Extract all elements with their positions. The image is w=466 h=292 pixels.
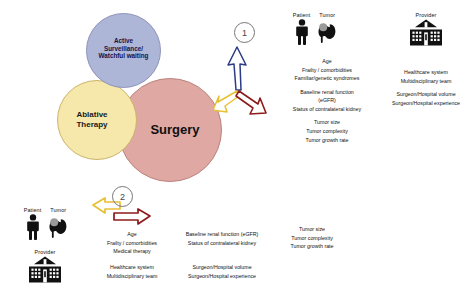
- arrow-down-left-yellow-icon: [214, 91, 239, 112]
- patient-header-bottom: Patient: [24, 207, 41, 213]
- circle-active-surveillance-label: ActiveSurveillance/Watchful waiting: [99, 37, 149, 65]
- group-one-patient-tumor-factors: Age Frailty / comorbidities Familiar/gen…: [282, 57, 372, 144]
- factor-line: Tumor complexity: [282, 127, 372, 136]
- factor-line: Status of contralateral kidney: [168, 239, 276, 248]
- factor-line: Healthcare system: [380, 68, 466, 77]
- provider-header-top: Provider: [398, 12, 454, 18]
- group-two-column-four: Healthcare system Multidisciplinary team: [84, 263, 180, 280]
- circle-ablative-therapy: AblativeTherapy: [57, 80, 137, 160]
- factor-line: Healthcare system: [84, 263, 180, 272]
- circle-surgery-label: Surgery: [140, 122, 199, 138]
- factor-line: Status of contralateral kidney: [282, 105, 372, 114]
- hospital-building-icon: [28, 256, 62, 283]
- factor-line: Baseline renal function: [282, 88, 372, 97]
- factor-line: Multidisciplinary team: [84, 272, 180, 281]
- group-one-provider-factors: Healthcare system Multidisciplinary team…: [380, 68, 466, 107]
- factor-line: Multidisciplinary team: [380, 77, 466, 86]
- arrow-right-red-icon: [114, 209, 150, 224]
- hospital-building-icon: [409, 19, 443, 46]
- arrow-down-right-red-icon: [236, 91, 266, 114]
- factor-line: Surgeon/Hospital volume: [380, 90, 466, 99]
- arrow-up-blue-icon: [228, 47, 246, 90]
- tumor-header-bottom: Tumor: [50, 207, 66, 213]
- factor-line: Tumor growth rate: [266, 242, 358, 251]
- group-two-column-five: Surgeon/Hospital volume Surgeon/Hospital…: [168, 263, 276, 280]
- group-one-patient-tumor-icons: Patient Tumor: [282, 12, 346, 45]
- group-two-provider-icon: Provider: [14, 249, 76, 287]
- factor-line: Surgeon/Hospital volume: [168, 263, 276, 272]
- arrow-cluster-group-one: [214, 44, 270, 116]
- factor-line: Frailty / comorbidities: [84, 239, 180, 248]
- factor-line: Familiar/genetic syndromes: [282, 74, 372, 83]
- provider-header-bottom: Provider: [14, 249, 76, 255]
- factor-line: Tumor complexity: [266, 234, 358, 243]
- person-icon: [24, 214, 42, 240]
- factor-line: Tumor size: [282, 118, 372, 127]
- circle-active-surveillance: ActiveSurveillance/Watchful waiting: [86, 13, 161, 88]
- group-two-patient-tumor-icons: Patient Tumor: [12, 207, 78, 240]
- tumor-header-top: Tumor: [319, 12, 335, 18]
- diagram-canvas: Surgery AblativeTherapy ActiveSurveillan…: [0, 0, 466, 292]
- kidney-tumor-icon: [47, 216, 67, 240]
- kidney-tumor-icon: [316, 21, 336, 45]
- badge-group-two: 2: [112, 186, 133, 207]
- badge-group-one-label: 1: [242, 28, 247, 38]
- group-two-column-three: Tumor size Tumor complexity Tumor growth…: [266, 225, 358, 251]
- factor-line: Surgeon/Hospital experience: [168, 272, 276, 281]
- factor-line: Frailty / comorbidities: [282, 66, 372, 75]
- group-two-column-two: Baseline renal function (eGFR) Status of…: [168, 230, 276, 247]
- factor-line: Medical therapy: [84, 247, 180, 256]
- factor-line: Baseline renal function (eGFR): [168, 230, 276, 239]
- factor-line: Age: [84, 230, 180, 239]
- person-icon: [293, 19, 311, 45]
- group-one-provider-icon: Provider: [398, 12, 454, 50]
- factor-line: Surgeon/Hospital experience: [380, 99, 466, 108]
- factor-line: Tumor growth rate: [282, 136, 372, 145]
- circle-ablative-therapy-label: AblativeTherapy: [76, 110, 117, 130]
- group-two-column-one: Age Frailty / comorbidities Medical ther…: [84, 230, 180, 256]
- factor-line: (eGFR): [282, 96, 372, 105]
- factor-line: Age: [282, 57, 372, 66]
- badge-group-one: 1: [234, 22, 255, 43]
- factor-line: Tumor size: [266, 225, 358, 234]
- patient-header-top: Patient: [293, 12, 310, 18]
- badge-group-two-label: 2: [120, 192, 125, 202]
